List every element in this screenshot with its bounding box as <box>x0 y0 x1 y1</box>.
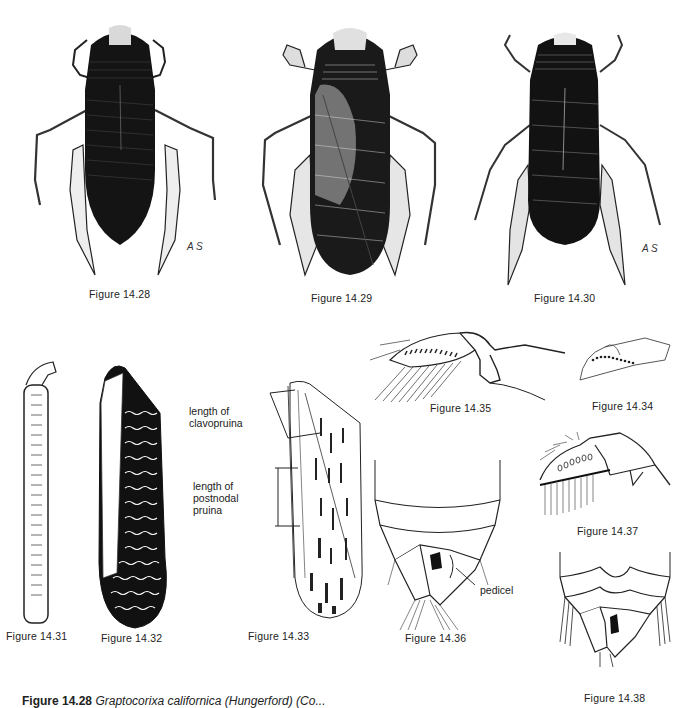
figure-14-34-illustration <box>575 335 675 385</box>
figure-14-35-illustration <box>365 325 570 405</box>
figure-14-33-illustration <box>270 378 360 623</box>
legend-species-text: Graptocorixa californica (Hungerford) (C… <box>95 694 325 708</box>
figure-caption-14-36: Figure 14.36 <box>405 632 466 644</box>
figure-14-29-illustration <box>245 5 455 295</box>
figure-caption-14-38: Figure 14.38 <box>584 692 645 704</box>
figure-14-37-illustration <box>535 430 685 520</box>
figure-14-31-illustration <box>18 360 63 630</box>
figure-caption-14-31: Figure 14.31 <box>6 630 67 642</box>
figure-14-36-illustration <box>370 460 505 630</box>
figure-14-28-illustration: A S <box>15 0 225 290</box>
label-pedicel: pedicel <box>480 584 513 596</box>
figure-legend-text: Figure 14.28 Graptocorixa californica (H… <box>22 694 325 708</box>
figure-caption-14-30: Figure 14.30 <box>534 292 595 304</box>
figure-14-30-illustration: A S <box>460 0 680 290</box>
label-postnodal-pruina: length of postnodal pruina <box>193 480 239 516</box>
legend-figure-label: Figure 14.28 <box>22 694 92 708</box>
figure-14-38-illustration <box>555 552 675 667</box>
figure-caption-14-32: Figure 14.32 <box>101 632 162 644</box>
figure-caption-14-37: Figure 14.37 <box>577 525 638 537</box>
artist-signature: A S <box>186 241 203 252</box>
figure-14-32-illustration <box>95 363 175 633</box>
figure-caption-14-34: Figure 14.34 <box>592 400 653 412</box>
label-clavopruina: length of clavopruina <box>189 405 243 429</box>
figure-caption-14-28: Figure 14.28 <box>89 288 150 300</box>
artist-signature: A S <box>641 243 658 254</box>
figure-caption-14-33: Figure 14.33 <box>248 630 309 642</box>
figure-caption-14-29: Figure 14.29 <box>311 292 372 304</box>
figure-caption-14-35: Figure 14.35 <box>430 402 491 414</box>
